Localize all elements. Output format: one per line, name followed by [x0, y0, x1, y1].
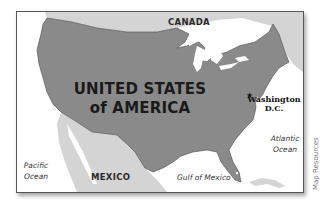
lake-okeechobee	[236, 172, 238, 174]
label-gulf-of-mexico: Gulf of Mexico	[177, 172, 231, 183]
capital-line2: D.C.	[246, 104, 302, 113]
caribbean-islands	[249, 178, 285, 188]
label-mexico: MEXICO	[91, 172, 130, 182]
map-frame: CANADA UNITED STATES of AMERICA ★ Washin…	[16, 11, 304, 193]
map-title: UNITED STATES of AMERICA	[55, 80, 225, 118]
label-washington-dc: Washington D.C.	[246, 95, 302, 113]
map-title-line1: UNITED STATES	[55, 80, 225, 99]
atlantic-line2: Ocean	[267, 144, 303, 155]
label-pacific-ocean: Pacific Ocean	[21, 160, 51, 182]
pacific-line1: Pacific	[21, 160, 51, 171]
label-canada: CANADA	[168, 17, 210, 27]
map-credit: Map Resources	[312, 137, 320, 190]
label-atlantic-ocean: Atlantic Ocean	[267, 133, 303, 155]
pacific-line2: Ocean	[21, 171, 51, 182]
atlantic-line1: Atlantic	[267, 133, 303, 144]
map-title-line2: of AMERICA	[55, 99, 225, 118]
